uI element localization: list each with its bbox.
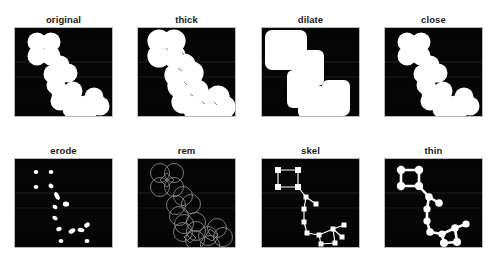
panel-label: dilate <box>261 14 360 25</box>
close-graphic <box>385 28 483 117</box>
panel-image-thin <box>384 158 483 248</box>
panel-erode: erode <box>14 145 113 248</box>
original-graphic <box>15 28 113 117</box>
panel-label: original <box>14 14 113 25</box>
panel-close: close <box>384 14 483 117</box>
morphology-figure: original thick <box>0 0 492 263</box>
panel-label: thin <box>384 145 483 156</box>
skel-graphic <box>262 159 360 248</box>
rem-graphic <box>138 159 236 248</box>
panel-thick: thick <box>137 14 236 117</box>
panel-image-close <box>384 27 483 117</box>
panel-image-thick <box>137 27 236 117</box>
panel-image-dilate <box>261 27 360 117</box>
panel-label: skel <box>261 145 360 156</box>
panel-thin: thin <box>384 145 483 248</box>
thin-graphic <box>385 159 483 248</box>
dilate-graphic <box>262 28 360 117</box>
panel-rem: rem <box>137 145 236 248</box>
panel-original: original <box>14 14 113 117</box>
panel-label: rem <box>137 145 236 156</box>
panel-dilate: dilate <box>261 14 360 117</box>
thick-graphic <box>138 28 236 117</box>
panel-label: thick <box>137 14 236 25</box>
erode-graphic <box>15 159 113 248</box>
panel-skel: skel <box>261 145 360 248</box>
panel-label: close <box>384 14 483 25</box>
panel-image-skel <box>261 158 360 248</box>
panel-image-erode <box>14 158 113 248</box>
panel-label: erode <box>14 145 113 156</box>
panel-image-rem <box>137 158 236 248</box>
panel-image-original <box>14 27 113 117</box>
